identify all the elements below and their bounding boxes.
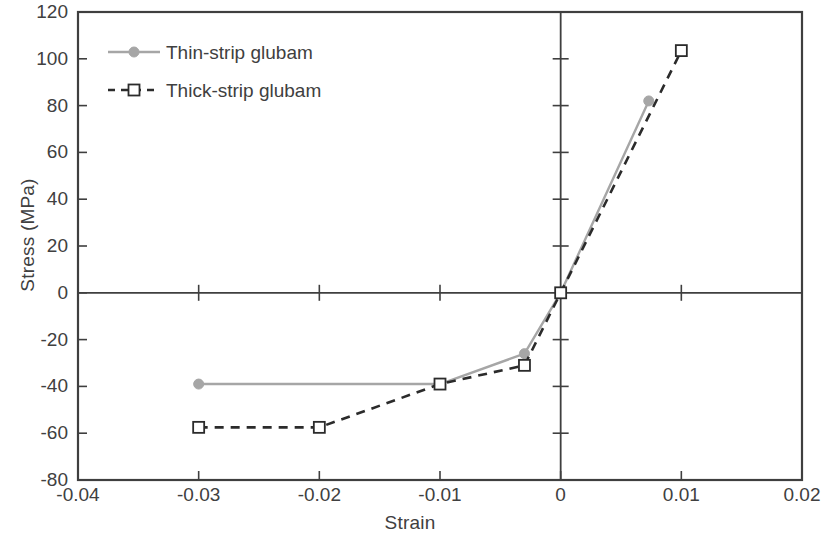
data-point [194, 379, 204, 389]
data-point [644, 96, 654, 106]
legend-marker [129, 47, 139, 57]
data-series-group [193, 45, 687, 433]
data-point [193, 422, 204, 433]
legend-label: Thin-strip glubam [166, 42, 313, 63]
legend-label: Thick-strip glubam [166, 80, 321, 101]
data-point [519, 360, 530, 371]
chart-legend: Thin-strip glubamThick-strip glubam [108, 42, 321, 101]
legend-item-2: Thick-strip glubam [108, 80, 321, 101]
series-line [199, 51, 682, 428]
data-point [555, 287, 566, 298]
legend-item-1: Thin-strip glubam [108, 42, 313, 63]
data-point [676, 45, 687, 56]
data-point [314, 422, 325, 433]
data-point [435, 379, 446, 390]
series-line [199, 101, 649, 384]
legend-marker [129, 85, 140, 96]
series-2 [193, 45, 687, 433]
